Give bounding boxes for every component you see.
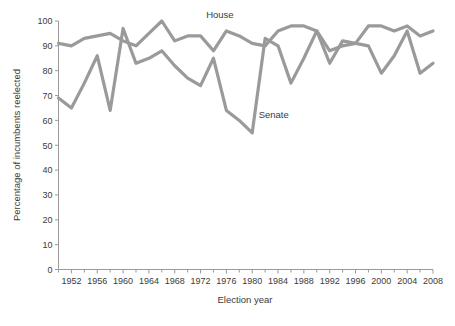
x-tick-label: 1980: [242, 276, 262, 286]
x-tick-label: 1956: [87, 276, 107, 286]
x-tick-label: 1968: [165, 276, 185, 286]
y-tick-label: 90: [42, 41, 52, 51]
house-series-label: House: [206, 9, 233, 20]
x-tick-label: 2008: [423, 276, 443, 286]
y-axis-tick-labels: 0102030405060708090100: [37, 16, 52, 275]
y-tick-label: 30: [42, 190, 52, 200]
y-axis-title: Percentage of incumbents reelected: [11, 69, 22, 221]
y-tick-label: 20: [42, 215, 52, 225]
x-tick-label: 1992: [320, 276, 340, 286]
incumbent-reelection-line-chart: 0102030405060708090100 19521956196019641…: [0, 0, 455, 326]
x-tick-label: 1964: [139, 276, 159, 286]
x-tick-label: 2004: [397, 276, 417, 286]
x-tick-label: 2000: [371, 276, 391, 286]
y-tick-label: 50: [42, 141, 52, 151]
y-tick-label: 10: [42, 240, 52, 250]
senate-series-line: [59, 28, 434, 132]
house-series-line: [59, 21, 434, 51]
y-tick-label: 100: [37, 16, 52, 26]
x-axis-title: Election year: [218, 294, 273, 305]
x-tick-label: 1972: [191, 276, 211, 286]
x-axis-major-ticks: [71, 270, 433, 274]
y-tick-label: 60: [42, 116, 52, 126]
chart-container: 0102030405060708090100 19521956196019641…: [0, 0, 455, 326]
x-tick-label: 1984: [268, 276, 288, 286]
y-tick-label: 70: [42, 91, 52, 101]
y-tick-label: 80: [42, 66, 52, 76]
x-tick-label: 1988: [294, 276, 314, 286]
y-axis-ticks: [55, 21, 59, 270]
x-axis-tick-labels: 1952195619601964196819721976198019841988…: [61, 276, 443, 286]
senate-series-label: Senate: [259, 109, 289, 120]
x-tick-label: 1996: [346, 276, 366, 286]
y-tick-label: 0: [47, 265, 52, 275]
x-tick-label: 1976: [216, 276, 236, 286]
x-tick-label: 1960: [113, 276, 133, 286]
y-tick-label: 40: [42, 165, 52, 175]
x-tick-label: 1952: [61, 276, 81, 286]
